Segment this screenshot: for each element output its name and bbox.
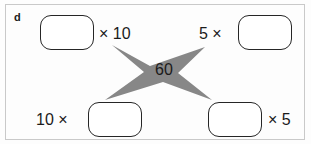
factor-label-top-left: × 10 — [99, 26, 131, 42]
answer-box-top-left[interactable] — [40, 15, 94, 50]
answer-box-bottom-left[interactable] — [88, 102, 142, 137]
factor-label-bottom-right: × 5 — [268, 112, 291, 128]
answer-box-top-right[interactable] — [238, 15, 292, 50]
item-letter-label: d — [14, 11, 21, 23]
factor-label-bottom-left: 10 × — [36, 112, 68, 128]
product-value-label: 60 — [147, 62, 181, 78]
factor-label-top-right: 5 × — [199, 26, 222, 42]
worksheet-canvas: d 60 × 10 5 × 10 × × 5 — [0, 0, 311, 144]
answer-box-bottom-right[interactable] — [208, 102, 262, 137]
